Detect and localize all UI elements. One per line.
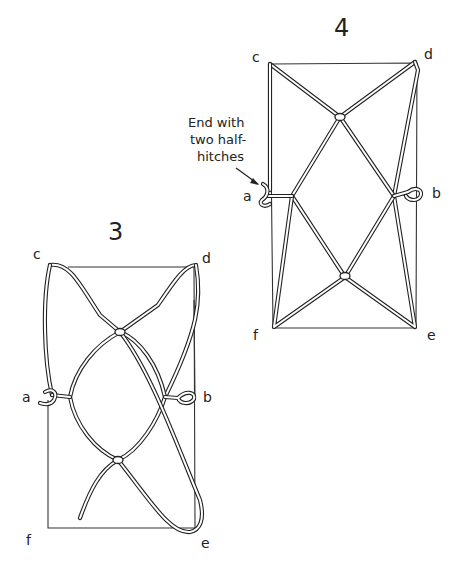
cord <box>261 62 421 327</box>
point-label-b: b <box>432 185 441 201</box>
point-label-b: b <box>203 389 212 405</box>
point-label-c: c <box>33 246 41 262</box>
point-label-f: f <box>26 532 32 548</box>
knot-diagram: 4 c d a b <box>0 0 464 574</box>
point-label-f: f <box>253 327 259 343</box>
point-label-a: a <box>22 389 31 405</box>
point-label-d: d <box>424 46 433 62</box>
point-label-a: a <box>243 188 252 204</box>
diagram-svg: 4 c d a b <box>0 0 464 574</box>
point-label-c: c <box>252 49 260 65</box>
figure-4: 4 c d a b <box>188 14 441 343</box>
point-label-e: e <box>201 535 210 551</box>
figure-number: 3 <box>108 218 123 246</box>
annotation-line: two half- <box>190 132 246 147</box>
annotation-line: hitches <box>197 149 244 164</box>
annotation-line: End with <box>188 115 244 130</box>
figure-number: 4 <box>334 14 349 42</box>
figure-3: 3 <box>22 218 212 551</box>
cord <box>40 265 202 532</box>
point-label-d: d <box>202 250 211 266</box>
annotation: End with two half- hitches <box>188 115 259 185</box>
point-label-e: e <box>427 327 436 343</box>
